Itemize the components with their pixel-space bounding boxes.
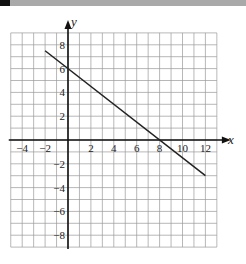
line-chart: −4−2246810128642−2−4−6−8 x y	[0, 0, 246, 264]
x-tick-label: 8	[157, 142, 163, 154]
x-axis-label: x	[227, 132, 234, 147]
y-tick-label: −6	[53, 205, 65, 217]
y-tick-label: −8	[53, 229, 65, 241]
x-tick-label: −4	[16, 142, 28, 154]
x-tick-label: −2	[39, 142, 51, 154]
axes	[9, 20, 231, 249]
y-tick-label: 4	[60, 86, 66, 98]
x-tick-label: 6	[134, 142, 140, 154]
x-tick-label: 12	[200, 142, 211, 154]
y-tick-label: 2	[60, 110, 66, 122]
x-tick-label: 4	[111, 142, 117, 154]
y-tick-label: 8	[60, 39, 66, 51]
y-tick-label: −2	[53, 158, 65, 170]
x-tick-label: 10	[177, 142, 189, 154]
y-axis-label: y	[69, 14, 77, 29]
y-tick-label: −4	[53, 182, 65, 194]
x-tick-label: 2	[88, 142, 94, 154]
